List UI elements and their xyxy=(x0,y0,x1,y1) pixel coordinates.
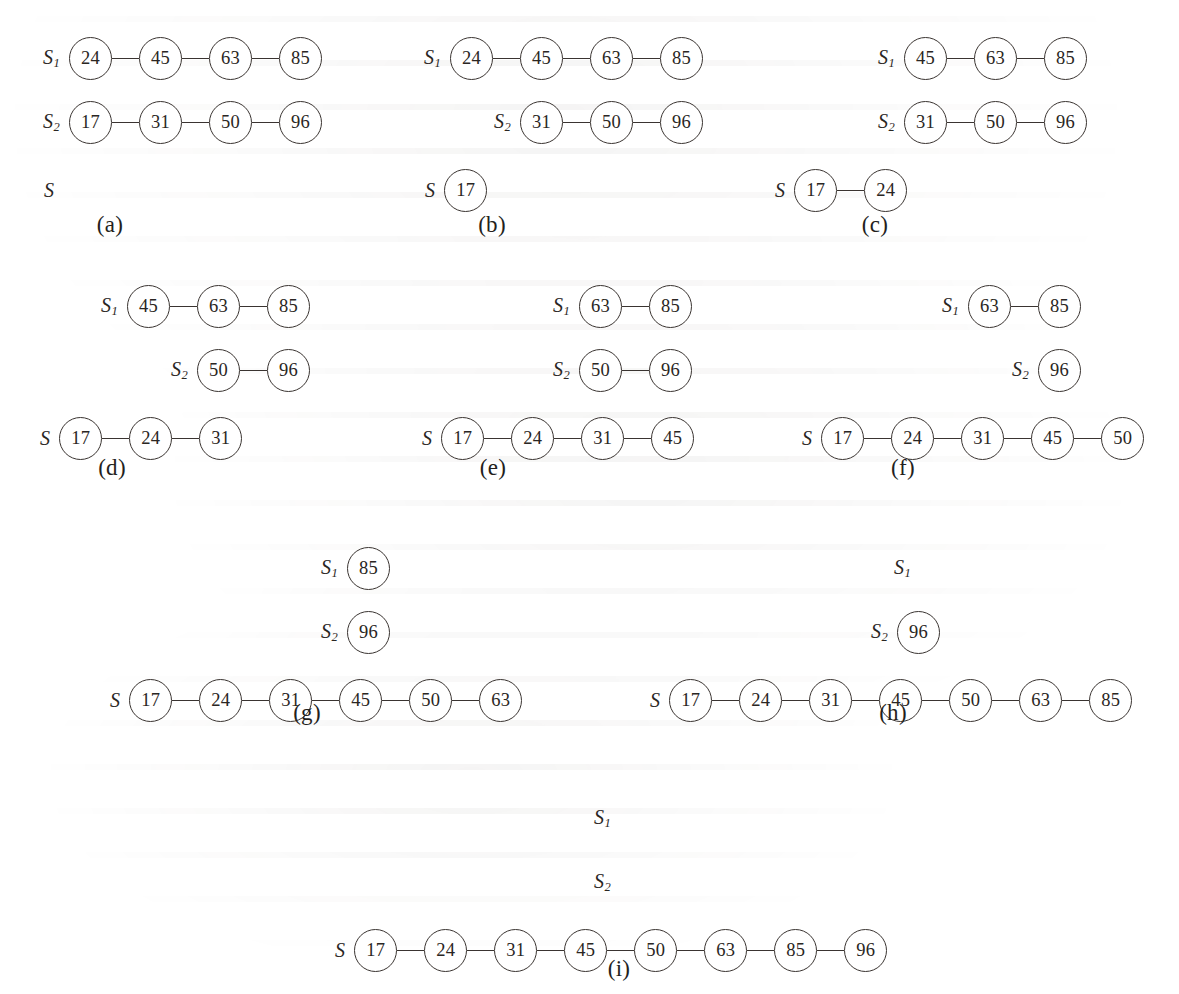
list-node: 85 xyxy=(774,929,817,972)
list-row-s1-panel-f: S16385 xyxy=(0,284,1081,328)
list-node: 24 xyxy=(424,929,467,972)
node-link xyxy=(677,950,704,951)
set-label-s1: S1 xyxy=(942,295,959,318)
list-row-s2-panel-f: S296 xyxy=(0,348,1081,392)
node-link xyxy=(1062,700,1089,701)
node-link xyxy=(607,950,634,951)
set-label-s: S xyxy=(775,180,785,200)
list-node: 96 xyxy=(1044,101,1087,144)
set-label-text: S xyxy=(942,294,952,316)
list-row-s1-panel-h: S1 xyxy=(0,546,920,590)
list-node: 17 xyxy=(669,679,712,722)
set-label-s2: S2 xyxy=(1012,359,1029,382)
set-label-s2: S2 xyxy=(878,111,895,134)
set-label-s2: S2 xyxy=(594,871,611,894)
node-link xyxy=(782,700,809,701)
list-node: 63 xyxy=(968,285,1011,328)
set-label-text: S xyxy=(594,870,604,892)
list-node: 17 xyxy=(794,169,837,212)
list-node: 96 xyxy=(1038,349,1081,392)
node-chain: 6385 xyxy=(968,285,1081,328)
panel-caption-c: (c) xyxy=(835,212,915,238)
set-label-subscript: 1 xyxy=(953,304,959,318)
node-chain: 456385 xyxy=(904,37,1087,80)
list-node: 85 xyxy=(1089,679,1132,722)
list-node: 31 xyxy=(961,417,1004,460)
node-link xyxy=(1017,122,1044,123)
list-node: 24 xyxy=(891,417,934,460)
panel-caption-i: (i) xyxy=(579,956,659,982)
list-row-s2-panel-i: S2 xyxy=(0,860,620,904)
list-row-s2-panel-h: S296 xyxy=(0,610,940,654)
set-label-text: S xyxy=(894,556,904,578)
list-node: 45 xyxy=(1031,417,1074,460)
set-label-subscript: 1 xyxy=(905,566,911,580)
set-label-s1: S1 xyxy=(878,47,895,70)
list-node: 63 xyxy=(974,37,1017,80)
list-node: 63 xyxy=(704,929,747,972)
node-link xyxy=(1011,306,1038,307)
set-label-s2: S2 xyxy=(871,621,888,644)
set-label-subscript: 2 xyxy=(889,120,895,134)
panel-caption-h: (h) xyxy=(853,700,933,726)
node-link xyxy=(837,190,864,191)
set-label-s: S xyxy=(650,690,660,710)
set-label-text: S xyxy=(650,689,660,711)
node-link xyxy=(947,122,974,123)
list-row-s2-panel-c: S2315096 xyxy=(0,100,1087,144)
set-label-text: S xyxy=(1012,358,1022,380)
list-node: 50 xyxy=(949,679,992,722)
panel-caption-f: (f) xyxy=(863,455,943,481)
list-row-s-panel-c: S1724 xyxy=(775,168,907,212)
node-link xyxy=(467,950,494,951)
list-node: 63 xyxy=(1019,679,1062,722)
node-link xyxy=(1017,58,1044,59)
set-label-s: S xyxy=(335,940,345,960)
merge-step-panel-h: S1S296S17243145506385(h) xyxy=(0,510,1179,758)
node-link xyxy=(864,438,891,439)
node-link xyxy=(712,700,739,701)
node-link xyxy=(992,700,1019,701)
node-link xyxy=(537,950,564,951)
set-label-s1: S1 xyxy=(894,557,911,580)
set-label-subscript: 2 xyxy=(882,630,888,644)
list-node: 50 xyxy=(974,101,1017,144)
set-label-text: S xyxy=(878,46,888,68)
node-link xyxy=(1074,438,1101,439)
node-chain: 96 xyxy=(897,611,940,654)
set-label-subscript: 1 xyxy=(889,56,895,70)
set-label-subscript: 2 xyxy=(605,880,611,894)
node-link xyxy=(817,950,844,951)
set-label-text: S xyxy=(335,939,345,961)
set-label-s: S xyxy=(802,428,812,448)
merge-step-panel-f: S16385S296S1724314550(f) xyxy=(0,248,1179,496)
set-label-text: S xyxy=(878,110,888,132)
list-node: 17 xyxy=(821,417,864,460)
merge-step-panel-i: S1S2S1724314550638596(i) xyxy=(0,760,1179,994)
list-row-s1-panel-i: S1 xyxy=(0,796,620,840)
list-row-s-panel-f: S1724314550 xyxy=(802,416,1144,460)
set-label-subscript: 1 xyxy=(605,816,611,830)
set-label-text: S xyxy=(871,620,881,642)
node-link xyxy=(747,950,774,951)
node-link xyxy=(1004,438,1031,439)
list-node: 31 xyxy=(904,101,947,144)
node-chain: 1724314550 xyxy=(821,417,1144,460)
list-node: 24 xyxy=(739,679,782,722)
list-node: 31 xyxy=(494,929,537,972)
set-label-text: S xyxy=(775,179,785,201)
list-node: 85 xyxy=(1044,37,1087,80)
list-node: 17 xyxy=(354,929,397,972)
set-label-subscript: 2 xyxy=(1023,368,1029,382)
set-label-text: S xyxy=(594,806,604,828)
node-chain: 1724 xyxy=(794,169,907,212)
list-node: 45 xyxy=(904,37,947,80)
node-chain: 96 xyxy=(1038,349,1081,392)
set-label-text: S xyxy=(802,427,812,449)
list-node: 31 xyxy=(809,679,852,722)
list-row-s1-panel-c: S1456385 xyxy=(0,36,1087,80)
node-link xyxy=(397,950,424,951)
node-link xyxy=(934,438,961,439)
node-link xyxy=(947,58,974,59)
list-node: 96 xyxy=(844,929,887,972)
